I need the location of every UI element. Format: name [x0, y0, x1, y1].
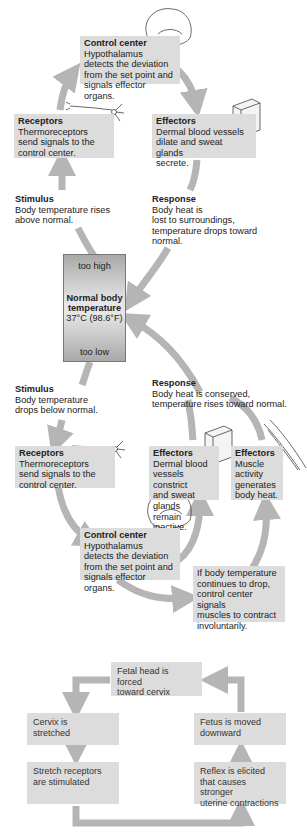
response-low-label: Response Body heat is conserved, tempera… — [152, 378, 287, 410]
arrow-top-to-cervix — [76, 680, 110, 706]
control-center-box: Control center Hypothalamus detects the … — [80, 36, 180, 84]
setpoint-value: 37°C (98.6°F) — [64, 313, 125, 324]
arrow-note-to-muscle — [248, 506, 266, 575]
receptors-box: Receptors Thermoreceptors send signals t… — [14, 114, 114, 158]
stretch-receptors-box: Stretch receptors are stimulated — [27, 762, 119, 804]
too-high-label: too high — [64, 261, 125, 272]
receptors-low-box: Receptors Thermoreceptors send signals t… — [15, 446, 115, 488]
control-center-low-box: Control center Hypothalamus detects the … — [80, 528, 180, 580]
arrow-stretch-to-reflex — [76, 806, 241, 823]
fetus-moved-box: Fetus is moved downward — [194, 713, 286, 745]
arrow-response-to-setpoint — [132, 248, 168, 300]
arrow-control-to-effector — [178, 70, 196, 104]
arrow-receptor-to-control — [60, 74, 72, 110]
arrow-fetus-to-top — [214, 680, 241, 712]
effectors-title: Effectors — [156, 116, 252, 127]
receptors-title: Receptors — [18, 116, 110, 127]
control-center-title: Control center — [84, 38, 176, 49]
stimulus-high-label: Stimulus Body temperature rises above no… — [15, 194, 110, 226]
too-low-label: too low — [64, 347, 125, 358]
effectors-skin-box: Effectors Dermal blood vessels constrict… — [149, 446, 219, 500]
setpoint-title-1: Normal body — [64, 293, 125, 304]
arrow-stimulus-to-receptor-low — [56, 420, 62, 442]
response-high-label: Response Body heat is lost to surroundin… — [152, 194, 257, 247]
stimulus-low-label: Stimulus Body temperature drops below no… — [15, 384, 98, 416]
cervix-box: Cervix is stretched — [27, 713, 119, 745]
arrow-setpoint-to-stimulus-up — [78, 228, 94, 256]
effectors-box: Effectors Dermal blood vessels dilate an… — [152, 114, 256, 158]
fetal-head-box: Fetal head is forced toward cervix — [111, 662, 202, 696]
note-box: If body temperature continues to drop, c… — [193, 566, 285, 622]
arrow-setpoint-to-stimulus-down — [82, 362, 90, 385]
effectors-muscle-box: Effectors Muscle activity generates body… — [231, 446, 283, 500]
reflex-box: Reflex is elicited that causes stronger … — [194, 762, 286, 804]
setpoint-title-2: temperature — [64, 303, 125, 314]
set-point-box: too high Normal body temperature 37°C (9… — [63, 254, 126, 362]
